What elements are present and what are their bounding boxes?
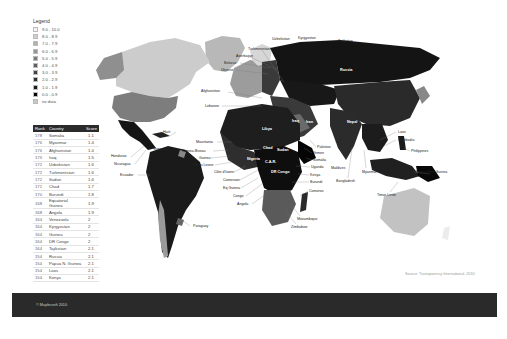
legend-label: 7.0 - 7.9 <box>42 41 57 46</box>
cell-score: 2 <box>84 231 99 238</box>
cell-country: Sudan <box>47 176 84 183</box>
cell-country: Afghanistan <box>47 147 84 154</box>
table-row: 164DR Congo2 <box>33 238 99 245</box>
label-congo: Congo <box>233 194 244 198</box>
label-russia: Russia <box>340 68 352 72</box>
legend-swatch <box>33 56 38 61</box>
label-burundi: Burundi <box>310 180 322 184</box>
legend-item: no data <box>33 98 93 105</box>
cell-rank: 168 <box>33 209 47 216</box>
cell-score: 1.9 <box>84 209 99 216</box>
label-iran: Iran <box>306 120 313 124</box>
legend-swatch <box>33 70 38 75</box>
label-guinea-bissau: Guinea-Bissau <box>182 149 206 153</box>
region-southern-africa <box>262 190 296 226</box>
cell-score: 1.4 <box>84 139 99 146</box>
label-sierra-leone: Sierra Leone <box>193 163 214 167</box>
source-credit: Source: Transparency International, 2010 <box>405 272 475 276</box>
cell-country: Angola <box>47 209 84 216</box>
cell-score: 1.9 <box>84 198 99 209</box>
label-sudan: Sudan <box>277 148 289 152</box>
table-row: 176Myanmar1.4 <box>33 139 99 146</box>
label-nicaragua: Nicaragua <box>114 162 130 166</box>
table-row: 178Somalia1.1 <box>33 132 99 139</box>
label-honduras: Honduras <box>111 154 127 158</box>
label-cameroon: Cameroon <box>223 178 240 182</box>
region-mexico <box>118 120 156 150</box>
label-mauritania: Mauritania <box>196 140 213 144</box>
legend-swatch <box>33 77 38 82</box>
copyright-text: © Maplecroft 2010 <box>36 303 67 307</box>
cell-score: 1.4 <box>84 147 99 154</box>
table-row: 154Papua N. Guinea2.1 <box>33 260 99 267</box>
table-row: 154Russia2.1 <box>33 252 99 259</box>
label-tajikistan: Tajikistan <box>338 39 353 43</box>
map-canvas: Uzbekistan Kyrgyzstan Tajikistan Turkmen… <box>0 0 507 339</box>
legend-label: 9.0 - 10.0 <box>42 27 60 32</box>
legend-label: 6.0 - 6.9 <box>42 49 57 54</box>
cell-country: Burundi <box>47 190 84 197</box>
label-afghanistan: Afghanistan <box>201 89 220 93</box>
cell-country: Myanmar <box>47 139 84 146</box>
region-madagascar <box>300 192 308 212</box>
cell-country: Chad <box>47 183 84 190</box>
legend-swatch <box>33 49 38 54</box>
table-row: 168Equatorial Guinea1.9 <box>33 198 99 209</box>
cell-rank: 154 <box>33 267 47 274</box>
table-row: 154Laos2.1 <box>33 267 99 274</box>
cell-score: 1.6 <box>84 176 99 183</box>
cell-country: DR Congo <box>47 238 84 245</box>
legend: Legend 9.0 - 10.0 8.0 - 8.9 7.0 - 7.9 6.… <box>33 18 93 105</box>
cell-rank: 154 <box>33 260 47 267</box>
legend-item: 5.0 - 5.9 <box>33 55 93 62</box>
cell-rank: 178 <box>33 132 47 139</box>
table-row: 172Uzbekistan1.6 <box>33 161 99 168</box>
label-lebanon: Lebanon <box>205 104 219 108</box>
cell-score: 1.1 <box>84 132 99 139</box>
cell-rank: 164 <box>33 238 47 245</box>
legend-swatch <box>33 41 38 46</box>
legend-item: 9.0 - 10.0 <box>33 26 93 33</box>
cell-rank: 172 <box>33 176 47 183</box>
cell-score: 1.7 <box>84 183 99 190</box>
label-nigeria: Nigeria <box>247 157 260 161</box>
label-maldives: Maldives <box>331 166 345 170</box>
label-nepal: Nepal <box>347 120 357 124</box>
label-angola: Angola <box>237 202 248 206</box>
label-chad: Chad <box>263 146 273 150</box>
table-row: 164Tajikistan2.1 <box>33 245 99 252</box>
label-paraguay: Paraguay <box>193 224 208 228</box>
legend-item: 2.0 - 2.9 <box>33 76 93 83</box>
cell-rank: 175 <box>33 154 47 161</box>
table-row: 171Chad1.7 <box>33 183 99 190</box>
label-iraq: Iraq <box>292 119 299 123</box>
label-haiti: Haiti <box>163 130 170 134</box>
cell-country: Kenya <box>47 274 84 281</box>
label-turkmenistan: Turkmenistan <box>248 47 270 51</box>
legend-label: 8.0 - 8.9 <box>42 34 57 39</box>
legend-swatch <box>33 27 38 32</box>
region-indonesia <box>370 158 420 180</box>
cell-score: 1.8 <box>84 190 99 197</box>
legend-item: 4.0 - 4.9 <box>33 62 93 69</box>
table-row: 164Guinea2 <box>33 231 99 238</box>
table-row: 175Iraq1.5 <box>33 154 99 161</box>
label-kyrgyzstan: Kyrgyzstan <box>298 36 316 40</box>
cell-rank: 168 <box>33 198 47 209</box>
legend-swatch <box>33 63 38 68</box>
legend-swatch <box>33 85 38 90</box>
cell-country: Kyrgyzstan <box>47 223 84 230</box>
legend-label: no data <box>42 99 56 104</box>
cell-rank: 176 <box>33 147 47 154</box>
table-row: 164Kyrgyzstan2 <box>33 223 99 230</box>
ranking-table: Rank Country Score 178Somalia1.1 176Myan… <box>33 125 99 282</box>
cell-rank: 154 <box>33 274 47 281</box>
cell-country: Guinea <box>47 231 84 238</box>
label-eq-guinea: Eq Guinea <box>223 186 240 190</box>
cell-rank: 176 <box>33 139 47 146</box>
label-comoros: Comoros <box>309 189 324 193</box>
table-row: 172Sudan1.6 <box>33 176 99 183</box>
label-kenya: Kenya <box>310 173 320 177</box>
cell-country: Venezuela <box>47 216 84 223</box>
cell-score: 2 <box>84 223 99 230</box>
